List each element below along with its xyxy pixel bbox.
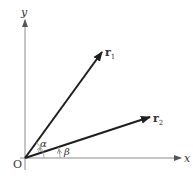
- x-axis-label: x: [184, 152, 191, 165]
- vector-r1: [25, 52, 102, 158]
- y-axis-label: y: [20, 6, 28, 19]
- r1-label: r1: [105, 46, 115, 61]
- alpha-label: α: [40, 138, 47, 149]
- beta-label: β: [63, 146, 70, 157]
- origin-label: O: [13, 158, 22, 171]
- r2-label: r2: [153, 112, 163, 127]
- vector-diagram: y x O r1 r2 α β: [0, 0, 193, 183]
